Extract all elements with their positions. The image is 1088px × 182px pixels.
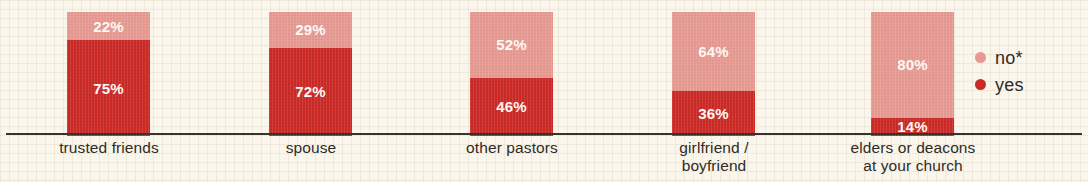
bar-value-label-yes: 46% — [496, 99, 527, 114]
legend: no* yes — [975, 44, 1080, 98]
category-label: other pastors — [417, 139, 607, 157]
category-label-line2: boyfriend — [619, 157, 809, 175]
category-label-line1: other pastors — [417, 139, 607, 157]
bar-segment-yes[interactable]: 75% — [67, 40, 150, 136]
category-label: elders or deacons at your church — [818, 139, 1008, 175]
bar-value-label-no: 22% — [93, 19, 124, 34]
bar-value-label-yes: 75% — [93, 81, 124, 96]
bar-value-label-no: 29% — [295, 22, 326, 37]
bar-segment-yes[interactable]: 36% — [672, 91, 755, 136]
bar-group[interactable]: 22% 75% — [67, 12, 150, 136]
bar-value-label-yes: 36% — [698, 106, 729, 121]
legend-swatch-yes-icon — [975, 79, 986, 90]
bar-segment-yes[interactable]: 72% — [269, 48, 352, 136]
category-label-line1: spouse — [216, 139, 406, 157]
bar-segment-no[interactable]: 80% — [871, 12, 954, 118]
category-label-line1: trusted friends — [14, 139, 204, 157]
bar-value-label-yes: 14% — [897, 119, 928, 134]
category-label: trusted friends — [14, 139, 204, 157]
bar-group[interactable]: 80% 14% — [871, 12, 954, 136]
category-label: spouse — [216, 139, 406, 157]
legend-item-no[interactable]: no* — [975, 44, 1080, 71]
category-label-line2: at your church — [818, 157, 1008, 175]
bar-segment-no[interactable]: 29% — [269, 12, 352, 48]
legend-label-yes: yes — [995, 76, 1024, 94]
bar-value-label-no: 52% — [496, 37, 527, 52]
legend-swatch-no-icon — [975, 52, 986, 63]
bar-segment-no[interactable]: 52% — [470, 12, 553, 78]
bar-group[interactable]: 64% 36% — [672, 12, 755, 136]
legend-label-no: no* — [995, 49, 1023, 67]
legend-item-yes[interactable]: yes — [975, 71, 1080, 98]
category-label-line1: girlfriend / — [619, 139, 809, 157]
bar-segment-yes[interactable]: 46% — [470, 78, 553, 136]
bar-value-label-yes: 72% — [295, 84, 326, 99]
bar-group[interactable]: 52% 46% — [470, 12, 553, 136]
category-label-line1: elders or deacons — [818, 139, 1008, 157]
plot-area: 22% 75% 29% 72% 52% 46% — [0, 0, 1088, 136]
category-axis-labels: trusted friends spouse other pastors gir… — [0, 139, 1088, 182]
bar-group[interactable]: 29% 72% — [269, 12, 352, 136]
stacked-bar-chart: 22% 75% 29% 72% 52% 46% — [0, 0, 1088, 182]
bar-segment-no[interactable]: 64% — [672, 12, 755, 91]
bar-segment-no[interactable]: 22% — [67, 12, 150, 40]
bar-value-label-no: 80% — [897, 57, 928, 72]
bar-value-label-no: 64% — [698, 44, 729, 59]
category-label: girlfriend / boyfriend — [619, 139, 809, 175]
